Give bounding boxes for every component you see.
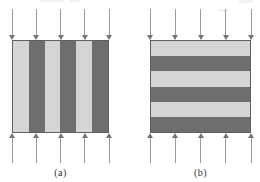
panel-b-stripe-light [151,71,250,86]
down-arrow-icon [82,9,88,40]
up-arrow-icon [58,133,64,163]
panel-a-stripe-light [45,41,61,132]
up-arrow-icon [147,133,153,163]
panel-b-label: (b) [150,167,251,178]
panel-a-bottom-load-arrows [12,133,109,163]
up-arrow-icon [223,133,229,163]
panel-a: (a) [12,9,109,178]
panel-b: (b) [150,9,251,178]
down-arrow-icon [9,9,15,40]
down-arrow-icon [106,9,112,40]
panel-b-stripe-dark [151,117,250,132]
panel-b-stripe-dark [151,87,250,102]
up-arrow-icon [82,133,88,163]
up-arrow-icon [9,133,15,163]
up-arrow-icon [106,133,112,163]
scan-artifact [70,0,80,2]
up-arrow-icon [248,133,254,163]
down-arrow-icon [198,9,204,40]
scan-artifact [40,0,64,2]
panel-a-label: (a) [12,167,109,178]
up-arrow-icon [172,133,178,163]
panel-b-stripe-dark [151,56,250,71]
down-arrow-icon [248,9,254,40]
panel-a-stripe-dark [92,41,108,132]
panel-a-striped-square [12,40,109,133]
panel-a-stripe-dark [29,41,45,132]
down-arrow-icon [172,9,178,40]
panel-b-stripe-light [151,102,250,117]
down-arrow-icon [147,9,153,40]
panel-b-top-load-arrows [150,9,251,40]
panel-b-bottom-load-arrows [150,133,251,163]
scan-artifact [239,0,253,3]
up-arrow-icon [198,133,204,163]
panel-a-stripe-dark [60,41,76,132]
down-arrow-icon [58,9,64,40]
panel-b-striped-square [150,40,251,133]
panel-a-stripe-light [13,41,29,132]
up-arrow-icon [33,133,39,163]
panel-a-stripe-light [76,41,92,132]
down-arrow-icon [33,9,39,40]
down-arrow-icon [223,9,229,40]
panel-b-stripe-light [151,41,250,56]
panel-a-top-load-arrows [12,9,109,40]
